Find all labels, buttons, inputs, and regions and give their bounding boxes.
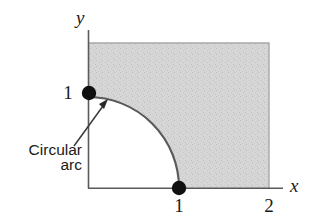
y-tick-label-1: 1 <box>60 83 76 102</box>
annotation-line-2: arc <box>14 157 82 172</box>
figure-container: y x 1 1 2 Circular arc <box>0 0 318 221</box>
y-axis-label: y <box>76 8 84 27</box>
shaded-region <box>88 43 269 188</box>
figure-canvas <box>0 0 318 221</box>
circular-arc-annotation: Circular arc <box>14 142 82 172</box>
point-marker-1-0 <box>172 181 186 195</box>
x-tick-label-2: 2 <box>261 196 277 215</box>
annotation-line-1: Circular <box>14 142 82 157</box>
x-axis-label: x <box>290 176 298 195</box>
x-tick-label-1: 1 <box>171 196 187 215</box>
annotation-arrow-icon <box>99 99 108 109</box>
point-marker-0-1 <box>82 86 96 100</box>
